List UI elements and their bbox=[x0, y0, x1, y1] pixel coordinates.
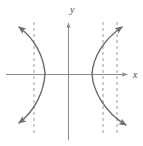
right-branch-lower bbox=[92, 74, 126, 125]
axes-group bbox=[6, 23, 127, 140]
asymptote-group bbox=[34, 22, 117, 133]
x-axis-label: x bbox=[132, 69, 138, 80]
hyperbola-figure: y x bbox=[0, 0, 143, 146]
figure-canvas: y x bbox=[0, 0, 143, 146]
left-branch-lower bbox=[19, 74, 45, 123]
hyperbola-group bbox=[19, 27, 126, 125]
left-branch-upper bbox=[19, 27, 45, 74]
y-axis-label: y bbox=[69, 4, 75, 15]
